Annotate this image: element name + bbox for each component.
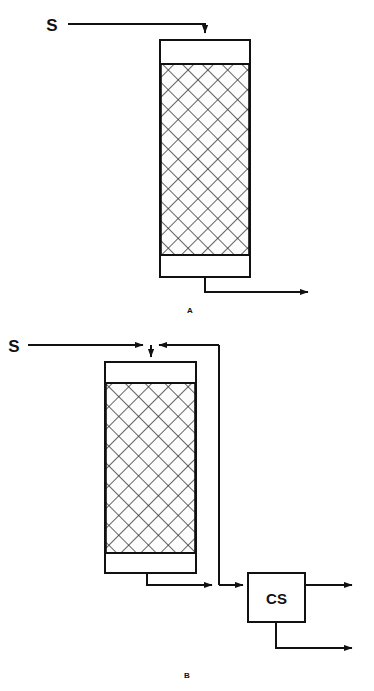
cs-bottoms-product-pipe	[276, 622, 352, 648]
panel-a-label: A	[187, 306, 193, 315]
panel-a-feed-pipe	[68, 24, 205, 33]
panel-b-column-packing	[106, 383, 195, 553]
process-flow-diagram-svg: S A CS	[0, 0, 374, 691]
panel-b-label: B	[184, 671, 190, 680]
cs-separator-label: CS	[266, 590, 287, 607]
panel-b-bottoms-pipe	[147, 573, 212, 585]
panel-a-column-packing	[161, 64, 249, 255]
panel-a-feed-label: S	[46, 16, 57, 35]
panel-b-feed-label: S	[8, 337, 19, 356]
panel-a: S A	[46, 16, 308, 315]
panel-a-product-pipe	[205, 277, 308, 292]
panel-b: CS S B	[8, 337, 352, 680]
process-flow-figure: S A CS	[0, 0, 374, 691]
